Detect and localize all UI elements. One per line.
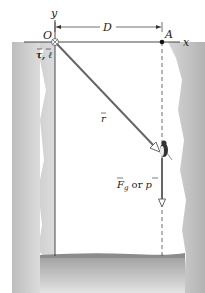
force-label-or: or — [128, 179, 145, 190]
torque-angular-momentum-label: τ, ℓ — [36, 50, 52, 61]
distance-label: D — [102, 21, 112, 34]
position-vector-label: r — [101, 113, 107, 124]
origin-label: O — [43, 29, 52, 42]
position-vector-r — [57, 44, 160, 152]
force-label-p: p — [146, 179, 153, 190]
point-a-label: A — [164, 28, 173, 41]
diagram-canvas: y x D A O τ, ℓ — [0, 0, 205, 293]
point-a — [160, 40, 165, 45]
force-vector-fg — [159, 158, 166, 207]
force-label: Fg or p — [116, 179, 153, 192]
x-axis-label: x — [183, 36, 190, 49]
y-axis-label: y — [50, 7, 58, 20]
ground — [40, 253, 185, 293]
